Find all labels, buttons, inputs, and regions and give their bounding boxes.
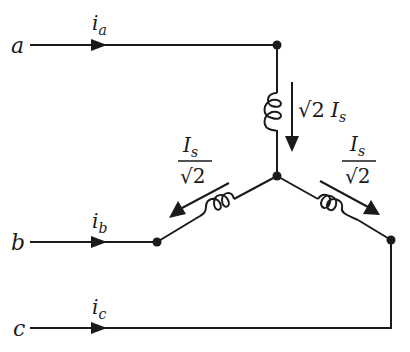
svg-text:Is: Is [349, 132, 365, 159]
wire-neutral-right [277, 176, 318, 199]
current-label-b: ib [92, 209, 107, 236]
terminal-label-a: a [11, 33, 24, 58]
current-label-c: ic [92, 295, 106, 322]
current-arrow-c-icon [91, 322, 107, 334]
wye-circuit-diagram: a b c ia ib ic √2Is Is √2 Is √2 [0, 0, 410, 352]
current-label-a: ia [92, 11, 107, 38]
svg-text:√2: √2 [345, 164, 370, 188]
svg-text:Is: Is [182, 133, 198, 160]
wire-right-to-node [358, 220, 391, 240]
wire-neutral-left [234, 176, 277, 199]
left-current-label: Is √2 [178, 133, 212, 188]
current-arrow-vertical-icon [285, 136, 299, 152]
current-arrow-b-icon [91, 236, 107, 248]
terminal-label-c: c [13, 316, 25, 341]
coil-vertical-icon [265, 93, 282, 130]
current-arrow-left-icon [169, 201, 186, 218]
terminal-label-b: b [11, 230, 25, 255]
right-current-label: Is √2 [342, 132, 376, 188]
vertical-current-label: √2Is [298, 98, 346, 125]
wire-left-to-b [157, 216, 200, 242]
svg-text:√2: √2 [180, 164, 205, 188]
current-arrow-a-icon [91, 39, 107, 51]
current-arrow-right-icon [363, 200, 380, 215]
